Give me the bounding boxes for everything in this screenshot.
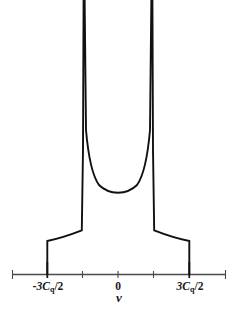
spectrum-lineshape [47, 0, 189, 275]
plot-canvas [0, 0, 238, 319]
nu-frequency-axis-label: ν [0, 291, 238, 304]
powder-pattern-figure: -3Cq/2 0 3Cq/2 ν [0, 0, 238, 319]
